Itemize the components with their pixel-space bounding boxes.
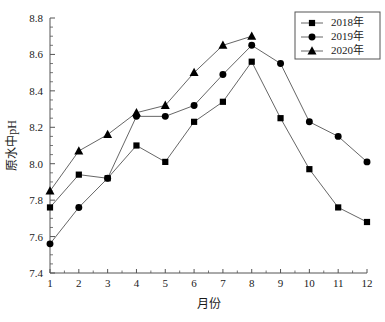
series-2019年 xyxy=(47,42,371,247)
x-tick-label: 9 xyxy=(278,277,284,289)
marker-square xyxy=(162,159,168,165)
marker-circle xyxy=(219,71,226,78)
series-line xyxy=(50,45,367,244)
x-tick-label: 12 xyxy=(362,277,373,289)
marker-circle xyxy=(277,60,284,67)
marker-square xyxy=(76,172,82,178)
series-line xyxy=(50,36,252,191)
marker-square xyxy=(220,99,226,105)
marker-triangle xyxy=(46,186,55,194)
x-tick-label: 4 xyxy=(134,277,140,289)
x-tick-label: 6 xyxy=(191,277,197,289)
legend-label: 2018年 xyxy=(331,15,364,28)
series-line xyxy=(50,62,367,222)
y-tick-label: 8.0 xyxy=(29,158,43,170)
legend: 2018年2019年2020年 xyxy=(295,12,380,59)
y-tick-label: 7.4 xyxy=(29,267,43,279)
marker-square xyxy=(277,115,283,121)
y-tick-label: 8.2 xyxy=(29,121,43,133)
marker-square xyxy=(191,119,197,125)
y-tick-label: 8.4 xyxy=(29,85,43,97)
x-tick-label: 11 xyxy=(333,277,344,289)
marker-square xyxy=(47,204,53,210)
x-tick-label: 5 xyxy=(163,277,169,289)
y-tick-label: 8.6 xyxy=(29,48,43,60)
ph-line-chart: 7.47.67.88.08.28.48.68.8123456789101112月… xyxy=(0,0,385,322)
marker-circle xyxy=(47,240,54,247)
y-axis-title: 原水中pH xyxy=(4,120,19,171)
marker-triangle xyxy=(247,31,256,39)
marker-square xyxy=(306,166,312,172)
y-tick-label: 8.8 xyxy=(29,12,43,24)
chart-canvas: 7.47.67.88.08.28.48.68.8123456789101112月… xyxy=(0,0,385,322)
marker-square xyxy=(364,219,370,225)
marker-circle xyxy=(104,175,111,182)
marker-triangle xyxy=(74,146,83,154)
marker-circle xyxy=(309,34,316,41)
marker-square xyxy=(335,204,341,210)
x-tick-label: 7 xyxy=(220,277,226,289)
x-tick-label: 3 xyxy=(105,277,111,289)
x-tick-label: 8 xyxy=(249,277,255,289)
marker-square xyxy=(309,20,315,26)
marker-circle xyxy=(248,42,255,49)
marker-circle xyxy=(335,133,342,140)
marker-square xyxy=(249,59,255,65)
marker-triangle xyxy=(103,130,112,138)
marker-circle xyxy=(306,118,313,125)
legend-label: 2019年 xyxy=(331,29,364,42)
x-tick-label: 1 xyxy=(47,277,53,289)
x-axis-title: 月份 xyxy=(197,297,221,311)
y-tick-label: 7.6 xyxy=(29,231,43,243)
x-tick-label: 10 xyxy=(304,277,316,289)
series-2020年 xyxy=(46,31,257,194)
marker-circle xyxy=(75,204,82,211)
marker-square xyxy=(133,142,139,148)
marker-circle xyxy=(364,158,371,165)
legend-label: 2020年 xyxy=(331,43,364,56)
x-tick-label: 2 xyxy=(76,277,82,289)
marker-circle xyxy=(191,102,198,109)
y-tick-label: 7.8 xyxy=(29,194,43,206)
marker-circle xyxy=(162,113,169,120)
